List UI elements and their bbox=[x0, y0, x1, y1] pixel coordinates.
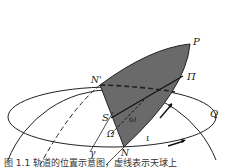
label-Q: Q bbox=[210, 109, 218, 119]
orbital-diagram: P Π N' Q S ω Ω ι γ N 图 1.1 轨道的位置示意图，虚线表示… bbox=[0, 0, 225, 168]
label-Pi: Π bbox=[187, 72, 196, 82]
sphere-drawing bbox=[0, 0, 225, 168]
label-omega: ω bbox=[129, 115, 136, 124]
label-N-prime: N' bbox=[91, 76, 101, 85]
label-P: P bbox=[193, 37, 200, 47]
label-N: N bbox=[121, 149, 129, 158]
label-gamma: γ bbox=[90, 149, 95, 158]
label-Omega: Ω bbox=[107, 130, 114, 139]
label-i: ι bbox=[146, 134, 150, 143]
label-S: S bbox=[102, 113, 109, 123]
figure-caption: 图 1.1 轨道的位置示意图，虚线表示天球上 bbox=[4, 159, 177, 168]
